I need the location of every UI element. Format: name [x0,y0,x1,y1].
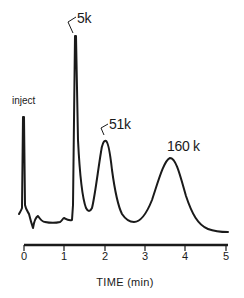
chromatogram-trace [19,36,228,232]
callout-51k [101,124,108,135]
peak-label-160k: 160 k [167,138,200,154]
callout-5k [68,17,76,33]
x-tick-0: 0 [21,250,27,262]
x-tick-1: 1 [61,250,67,262]
peak-label-5k: 5k [77,10,91,26]
inject-label: inject [12,95,35,106]
x-tick-5: 5 [223,250,229,262]
x-tick-3: 3 [142,250,148,262]
peak-label-51k: 51k [109,116,131,132]
x-tick-2: 2 [102,250,108,262]
chromatogram-plot [0,0,244,298]
x-axis-title: TIME (min) [96,276,153,288]
x-tick-4: 4 [182,250,188,262]
